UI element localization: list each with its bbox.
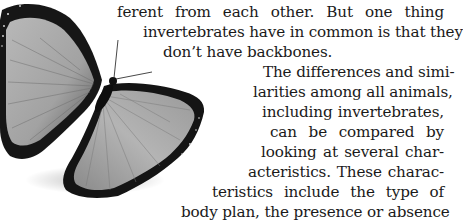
text-line: don’t have backbones. [163, 42, 444, 62]
text-line: acteristics. These charac- [248, 162, 444, 182]
text-line: including invertebrates, [262, 102, 444, 122]
text-line: looking at several char- [261, 142, 444, 162]
text-line: can be compared by [270, 122, 444, 142]
text-line: ferent from each other. But one thing [117, 2, 444, 22]
text-line: The differences and simi- [263, 62, 444, 82]
text-line: body plan, the presence or absence [181, 202, 444, 222]
text-line: teristics include the type of [212, 182, 444, 202]
text-line: invertebrates have in common is that the… [143, 22, 444, 42]
text-line: larities among all animals, [253, 82, 444, 102]
